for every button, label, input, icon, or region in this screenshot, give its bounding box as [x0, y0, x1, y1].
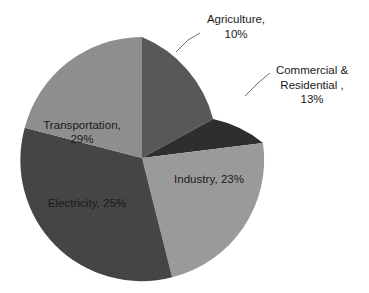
- pie-label-electricity: Electricity, 25%: [32, 196, 142, 210]
- pie-chart: Agriculture, 10% Commercial & Residentia…: [0, 0, 369, 293]
- pie-label-industry: Industry, 23%: [156, 172, 262, 186]
- pie-label-agriculture: Agriculture, 10%: [190, 12, 282, 41]
- pie-label-transportation: Transportation, 29%: [20, 118, 144, 146]
- pie-chart-canvas: [0, 0, 369, 293]
- pie-label-commercial-residential: Commercial & Residential , 13%: [258, 63, 366, 107]
